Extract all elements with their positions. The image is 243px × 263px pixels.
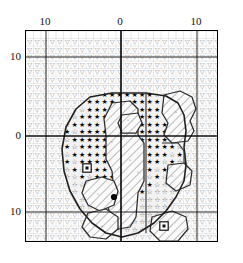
peak-dot (111, 194, 117, 200)
xaxis-tick-label-left: 10 (40, 16, 51, 27)
symbol-map-svg: ▽▽▽▽▽▽▽▽▽▽▽▽▽▽▽▽▽▽▽▽▽▽▽▽▽▽▽▽▽▽▽▽▽▽▽▽▽▽▽▽… (26, 31, 218, 242)
plot-canvas: ▽▽▽▽▽▽▽▽▽▽▽▽▽▽▽▽▽▽▽▽▽▽▽▽▽▽▽▽▽▽▽▽▽▽▽▽▽▽▽▽… (26, 31, 217, 241)
svg-text:★: ★ (124, 91, 130, 99)
svg-text:★: ★ (117, 91, 123, 99)
yaxis-tick-label-zero: 0 (0, 130, 21, 141)
svg-text:▽: ▽ (57, 233, 62, 241)
svg-text:▽: ▽ (35, 233, 40, 241)
xaxis-tick-label-right: 10 (191, 16, 202, 27)
svg-text:◦: ◦ (136, 168, 140, 175)
figure-root: 10 0 10 10 0 10 (0, 0, 243, 263)
svg-text:◦: ◦ (126, 116, 130, 123)
boxed-marker-bottom-right (160, 222, 168, 230)
svg-text:▽: ▽ (27, 233, 32, 241)
svg-text:◦: ◦ (170, 172, 174, 179)
svg-text:▽: ▽ (207, 233, 212, 241)
svg-text:▽: ▽ (80, 233, 85, 241)
svg-text:▽: ▽ (215, 233, 218, 241)
yaxis-tick-label-upper: 10 (0, 51, 21, 62)
svg-text:◦: ◦ (174, 108, 178, 115)
yaxis-tick-label-lower: 10 (0, 206, 21, 217)
svg-text:◦: ◦ (128, 156, 132, 163)
svg-text:◦: ◦ (110, 138, 114, 145)
svg-text:▽: ▽ (65, 233, 70, 241)
svg-text:▽: ▽ (42, 233, 47, 241)
svg-text:◦: ◦ (100, 222, 104, 229)
hatch-lobe-bottom-right (150, 211, 188, 241)
boxed-marker-left (83, 164, 91, 172)
svg-text:▽: ▽ (200, 233, 205, 241)
svg-text:▽: ▽ (192, 233, 197, 241)
plot-frame: ▽▽▽▽▽▽▽▽▽▽▽▽▽▽▽▽▽▽▽▽▽▽▽▽▽▽▽▽▽▽▽▽▽▽▽▽▽▽▽▽… (25, 30, 218, 242)
xaxis-tick-label-zero: 0 (117, 16, 123, 27)
svg-text:◦: ◦ (96, 190, 100, 197)
svg-text:▽: ▽ (185, 233, 190, 241)
svg-text:▽: ▽ (50, 233, 55, 241)
svg-text:▽: ▽ (140, 233, 145, 241)
svg-text:▽: ▽ (72, 233, 77, 241)
svg-text:▽: ▽ (147, 233, 152, 241)
